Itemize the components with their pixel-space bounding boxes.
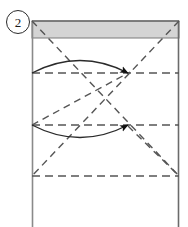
top-folded-flap <box>32 21 179 38</box>
origami-fold-diagram <box>0 0 188 227</box>
paper-sheet-fill <box>32 21 179 227</box>
figure-canvas: 2 <box>0 0 188 227</box>
